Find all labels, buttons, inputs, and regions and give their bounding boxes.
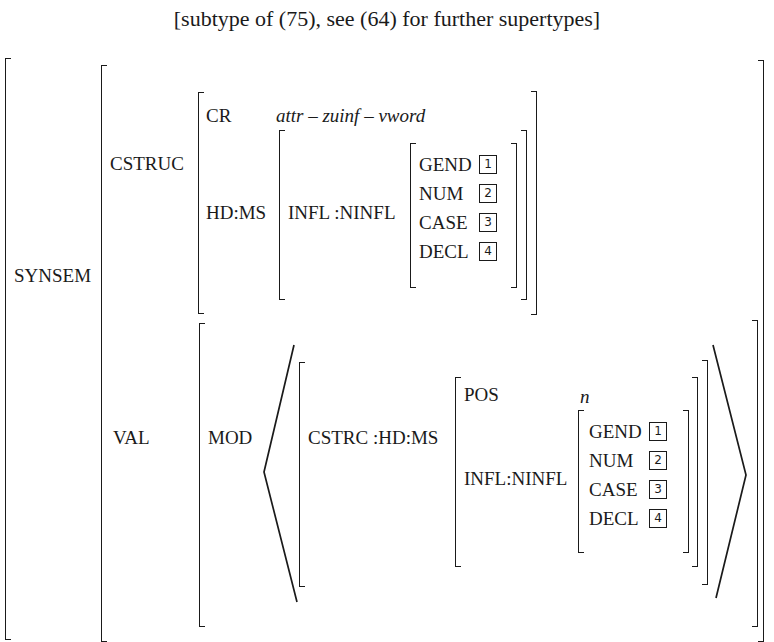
mod-item-bracket-left: [299, 362, 305, 587]
feature-label: CASE: [419, 213, 473, 232]
cstrc-hd-ms-label: CSTRC :HD:MS: [308, 428, 438, 447]
cr-label: CR: [206, 106, 231, 125]
feature-row-case: CASE 3: [589, 475, 667, 504]
cstrc-value-bracket-right: [692, 377, 698, 567]
cstruc-bracket-right: [531, 91, 537, 315]
hd-ms-label: HD:MS: [206, 203, 266, 222]
infl-feature-list: GEND 1 NUM 2 CASE 3 DECL 4: [419, 150, 497, 266]
pos-label: POS: [464, 385, 499, 404]
infl-mod-feature-list: GEND 1 NUM 2 CASE 3 DECL 4: [589, 417, 667, 533]
cstruc-label: CSTRUC: [110, 154, 184, 173]
mod-item-bracket-right: [702, 360, 708, 585]
infl-ninfl-label: INFL :NINFL: [288, 203, 396, 222]
feature-label: CASE: [589, 480, 643, 499]
cr-value: attr – zuinf – vword: [276, 106, 425, 125]
feature-row-gend: GEND 1: [419, 150, 497, 179]
tag-box: 3: [479, 213, 497, 232]
feature-row-case: CASE 3: [419, 208, 497, 237]
feature-row-decl: DECL 4: [419, 237, 497, 266]
cstruc-bracket-left: [198, 92, 204, 314]
list-open-angle-icon: [260, 340, 300, 605]
synsem-bracket-left: [5, 58, 11, 640]
tag-box: 4: [479, 242, 497, 261]
val-label: VAL: [113, 428, 150, 447]
tag-box: 2: [479, 184, 497, 203]
infl-mod-bracket-left: [578, 410, 584, 553]
val-bracket-right: [752, 320, 758, 627]
tag-box: 1: [649, 422, 667, 441]
feature-row-gend: GEND 1: [589, 417, 667, 446]
synsem-label: SYNSEM: [14, 266, 91, 285]
cstrc-value-bracket-left: [455, 377, 461, 567]
feature-label: GEND: [419, 155, 473, 174]
feature-row-decl: DECL 4: [589, 504, 667, 533]
tag-box: 3: [649, 480, 667, 499]
val-bracket-left: [199, 323, 205, 627]
infl-ninfl-label-mod: INFL:NINFL: [464, 469, 567, 488]
mod-label: MOD: [208, 428, 252, 447]
tag-box: 4: [649, 509, 667, 528]
infl-bracket-right: [511, 143, 517, 288]
synsem-value-bracket-left: [101, 65, 107, 642]
tag-box: 2: [649, 451, 667, 470]
list-close-angle-icon: [710, 340, 750, 605]
pos-value: n: [580, 387, 590, 406]
infl-bracket-left: [410, 143, 416, 288]
hd-ms-bracket-right: [521, 130, 527, 300]
tag-box: 1: [479, 155, 497, 174]
feature-label: DECL: [419, 242, 473, 261]
infl-mod-bracket-right: [683, 410, 689, 553]
feature-label: GEND: [589, 422, 643, 441]
feature-label: DECL: [589, 509, 643, 528]
figure-caption: [subtype of (75), see (64) for further s…: [0, 8, 774, 30]
feature-label: NUM: [589, 451, 643, 470]
feature-row-num: NUM 2: [419, 179, 497, 208]
synsem-bracket-right: [758, 60, 764, 642]
feature-label: NUM: [419, 184, 473, 203]
feature-row-num: NUM 2: [589, 446, 667, 475]
hd-ms-bracket-left: [279, 130, 285, 300]
